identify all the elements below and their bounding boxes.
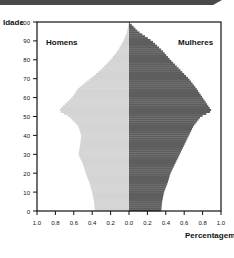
y-tick-label: 30 [23, 152, 30, 158]
x-tick-label: 0.0 [125, 220, 134, 226]
bar-men [104, 65, 129, 67]
bar-women [129, 183, 167, 185]
bar-women [129, 54, 166, 56]
bar-men [91, 188, 129, 190]
bar-men [80, 156, 129, 158]
bar-women [129, 202, 162, 204]
bar-men [127, 30, 129, 32]
bar-women [129, 139, 187, 141]
bar-women [129, 50, 163, 52]
bar-women [129, 181, 168, 183]
y-tick-label: 60 [23, 95, 30, 101]
legend-men: Homens [46, 38, 78, 47]
bar-men [126, 33, 129, 35]
bar-men [78, 88, 129, 90]
bar-women [129, 200, 162, 202]
bar-women [129, 105, 208, 107]
bar-women [129, 37, 148, 39]
bar-men [110, 60, 129, 62]
bar-men [85, 171, 129, 173]
bar-women [129, 30, 137, 32]
bar-men [65, 103, 129, 105]
bar-men [89, 79, 129, 81]
bar-women [129, 177, 169, 179]
bar-women [129, 77, 188, 79]
y-axis-label: Idade [3, 18, 24, 27]
bar-men [61, 111, 129, 113]
bar-men [79, 126, 129, 128]
bar-women [129, 130, 191, 132]
bar-women [129, 99, 205, 101]
bar-women [129, 168, 173, 170]
x-tick-label: 0.6 [180, 220, 189, 226]
bar-women [129, 196, 163, 198]
bar-men [81, 137, 129, 139]
y-tick-label: 50 [23, 114, 30, 120]
bar-women [129, 82, 192, 84]
y-tick-label: 20 [23, 171, 30, 177]
bar-men [85, 169, 129, 171]
bar-women [129, 162, 175, 164]
y-tick-label: 10 [23, 190, 30, 196]
bar-women [129, 135, 188, 137]
x-axis-ticks: 1.00.80.60.40.20.00.20.40.60.81.0 [33, 211, 226, 226]
bar-men [81, 158, 129, 160]
bar-men [128, 26, 129, 28]
bar-men [82, 84, 129, 86]
bar-men [119, 48, 129, 50]
bar-women [129, 62, 173, 64]
bar-men [100, 69, 129, 71]
bar-men [79, 154, 129, 156]
bar-women [129, 31, 140, 33]
bar-women [129, 171, 171, 173]
y-tick-label: 40 [23, 133, 30, 139]
bar-men [81, 141, 129, 143]
bar-men [80, 130, 129, 132]
bar-women [129, 194, 163, 196]
bar-men [93, 198, 129, 200]
bar-men [63, 105, 129, 107]
bar-men [111, 58, 129, 60]
x-tick-label: 1.0 [217, 220, 226, 226]
bar-men [128, 24, 129, 26]
bar-women [129, 160, 176, 162]
bar-men [68, 115, 129, 117]
bar-men [80, 145, 129, 147]
bar-women [129, 47, 159, 49]
legend-women: Mulheres [178, 38, 214, 47]
bar-men [64, 113, 129, 115]
bar-women [129, 90, 198, 92]
bar-men [91, 77, 129, 79]
x-tick-label: 0.2 [143, 220, 152, 226]
bar-women [129, 134, 189, 136]
bar-men [90, 183, 129, 185]
x-tick-label: 1.0 [33, 220, 42, 226]
bar-women [129, 156, 178, 158]
bar-men [80, 143, 129, 145]
bar-men [125, 35, 129, 37]
bar-men [73, 96, 129, 98]
bar-women [129, 35, 145, 37]
bar-women [129, 96, 202, 98]
bar-men [125, 37, 129, 39]
bar-women [129, 39, 151, 41]
bar-men [92, 192, 129, 194]
bar-men [116, 52, 129, 54]
bar-women [129, 67, 179, 69]
bar-women [129, 64, 175, 66]
bar-women [129, 115, 203, 117]
bar-women [129, 166, 174, 168]
bar-men [69, 99, 129, 101]
y-tick-label: 90 [23, 38, 30, 44]
bar-women [129, 28, 135, 30]
y-tick-label: 0 [27, 209, 31, 215]
bar-women [129, 164, 175, 166]
bar-men [88, 179, 129, 181]
bar-women [129, 145, 184, 147]
x-tick-label: 0.6 [70, 220, 79, 226]
bar-women [129, 58, 170, 60]
bar-men [127, 31, 129, 33]
x-tick-label: 0.4 [162, 220, 171, 226]
bar-women [129, 117, 200, 119]
bar-women [129, 48, 161, 50]
